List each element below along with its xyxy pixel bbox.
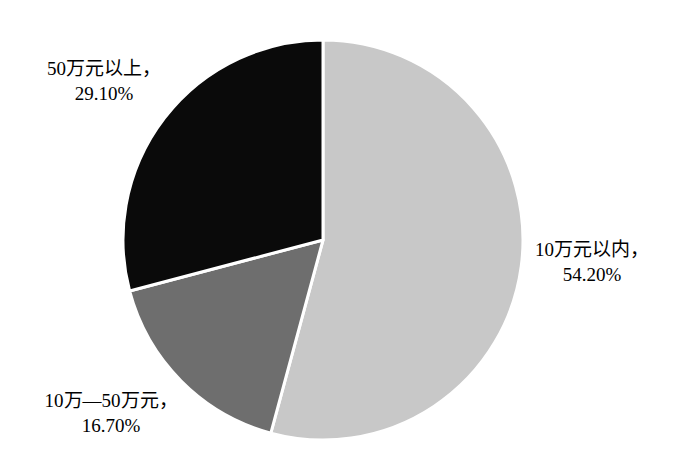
pie-label-above-500k: 50万元以上， 29.10% — [34, 56, 174, 106]
pie-label-above-500k-category: 50万元以上， — [34, 56, 174, 81]
pie-chart-figure: 50万元以上， 29.10% 10万元以内， 54.20% 10万—50万元， … — [0, 0, 684, 476]
pie-label-within-100k: 10万元以内， 54.20% — [524, 237, 660, 287]
pie-label-within-100k-value: 54.20% — [524, 262, 660, 287]
pie-label-100k-500k-value: 16.70% — [32, 413, 190, 438]
pie-label-100k-500k: 10万—50万元， 16.70% — [32, 388, 190, 438]
pie-label-above-500k-value: 29.10% — [34, 81, 174, 106]
pie-label-100k-500k-category: 10万—50万元， — [32, 388, 190, 413]
pie-label-within-100k-category: 10万元以内， — [524, 237, 660, 262]
